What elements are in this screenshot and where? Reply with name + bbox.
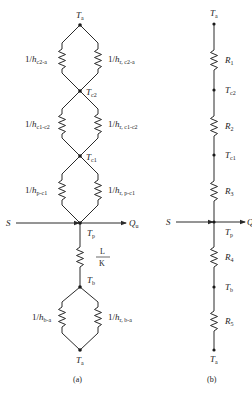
label-tc1: Tc1	[225, 150, 236, 161]
resistor-icon	[59, 49, 66, 69]
thermal-resistance-network-figure: Ta Tc2 Tc1 Tp Tb Ta 1/hc2-a 1/hr, c2-a 1…	[0, 0, 252, 393]
resistor-icon	[77, 247, 84, 267]
resistor-icon	[211, 247, 218, 267]
label-r2: R2	[224, 121, 234, 132]
diagram-b: Ta Tc2 Tc1 Tp Tb Ta R1 R2 R3 R4 R5 S Qu …	[166, 8, 252, 384]
resistor-icon	[59, 307, 66, 327]
label-tc1: Tc1	[86, 152, 97, 163]
resistor-icon	[59, 180, 66, 200]
node-tc2	[212, 88, 215, 91]
label-hr-b-a: 1/hr, b-a	[108, 312, 132, 323]
resistor-icon	[95, 114, 102, 134]
fraction-numerator: L	[100, 247, 105, 256]
label-hr-p-c1: 1/hr, p-c1	[108, 185, 135, 196]
label-h-c1-c2: 1/hc1-c2	[25, 119, 50, 130]
node-ta-bottom	[78, 348, 82, 352]
caption-b: (b)	[207, 375, 217, 384]
label-h-c2-a: 1/hc2-a	[25, 54, 47, 65]
node-tc1	[78, 154, 82, 158]
caption-a: (a)	[73, 375, 82, 384]
conduction-path	[77, 223, 84, 287]
resistor-icon	[211, 50, 218, 70]
node-tb	[212, 285, 215, 288]
label-r5: R5	[224, 316, 234, 327]
label-ta-top: Ta	[76, 10, 84, 21]
label-tp: Tp	[225, 227, 233, 238]
label-tb: Tb	[87, 275, 95, 286]
loop-tc2-ta	[59, 25, 102, 91]
fraction-denominator: K	[99, 259, 105, 268]
node-tc2	[78, 89, 82, 93]
node-tb	[78, 285, 82, 289]
label-r3: R3	[224, 186, 234, 197]
label-s: S	[6, 218, 11, 228]
label-h-b-a: 1/hb-a	[32, 312, 52, 323]
label-ta-bottom: Ta	[76, 355, 84, 366]
label-tc2: Tc2	[225, 85, 236, 96]
label-qu: Qu	[247, 217, 252, 228]
label-ta-top: Ta	[210, 8, 218, 19]
diagram-a: Ta Tc2 Tc1 Tp Tb Ta 1/hc2-a 1/hr, c2-a 1…	[6, 10, 139, 384]
resistor-icon	[211, 181, 218, 201]
label-tb: Tb	[225, 282, 233, 293]
node-tp	[78, 221, 82, 225]
label-l-over-k: L K	[96, 247, 110, 268]
resistor-icon	[59, 114, 66, 134]
node-ta-top	[212, 22, 215, 25]
label-hr-c1-c2: 1/hr, c1-c2	[108, 119, 138, 130]
label-ta-bottom: Ta	[210, 354, 218, 365]
loop-tc1-tc2	[59, 91, 102, 156]
label-tc2: Tc2	[86, 87, 97, 98]
label-tp: Tp	[87, 228, 95, 239]
label-hr-c2-a: 1/hr, c2-a	[108, 54, 135, 65]
node-ta-top	[78, 23, 82, 27]
loop-tp-tc1	[59, 156, 102, 223]
label-r4: R4	[224, 252, 234, 263]
resistor-icon	[95, 49, 102, 69]
label-qu: Qu	[129, 218, 139, 229]
label-h-p-c1: 1/hp-c1	[25, 185, 47, 196]
node-ta-bottom	[212, 348, 215, 351]
resistor-icon	[211, 116, 218, 136]
resistor-icon	[95, 307, 102, 327]
resistor-icon	[95, 180, 102, 200]
loop-tb-ta	[59, 287, 102, 350]
resistor-icon	[211, 311, 218, 331]
label-s: S	[166, 217, 171, 227]
label-r1: R1	[224, 55, 234, 66]
node-tc1	[212, 153, 215, 156]
node-tp	[212, 220, 215, 223]
